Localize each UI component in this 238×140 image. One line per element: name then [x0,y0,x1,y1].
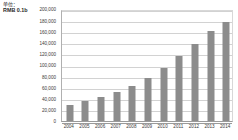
x-axis-tick-label: 2012 [189,124,199,129]
bar-slot [203,11,219,121]
bar [160,68,167,121]
x-axis-tick-label: 2006 [95,124,105,129]
bar-slot [125,11,141,121]
x-axis-tick-label: 2004 [64,124,74,129]
y-axis-tick-label: 60,000 [10,86,56,91]
y-axis-tick-label: 160,000 [10,30,56,35]
y-axis-tick-label: 180,000 [10,19,56,24]
bar [191,44,198,121]
bar [113,92,120,121]
x-axis-tick-label: 2009 [142,124,152,129]
plot-area [61,10,233,122]
bar-slot [78,11,94,121]
bar-slot [62,11,78,121]
bar-slot [218,11,234,121]
y-axis-tick-label: 120,000 [10,52,56,57]
bar [66,105,73,121]
y-axis-tick-label: 200,000 [10,7,56,12]
bar-slot [93,11,109,121]
y-axis-tick-label: 140,000 [10,41,56,46]
bar [129,86,136,121]
x-axis-tick-label: 2010 [158,124,168,129]
y-axis-tick-label: 80,000 [10,75,56,80]
bar [207,31,214,121]
bar-slot [109,11,125,121]
x-axis-tick-label: 2013 [204,124,214,129]
x-axis-tick-label: 2014 [220,124,230,129]
bar-slot [140,11,156,121]
x-axis-tick-label: 2005 [79,124,89,129]
bar [144,78,151,121]
bar-slot [187,11,203,121]
y-axis-tick-label: 20,000 [10,108,56,113]
bar [223,22,230,121]
y-axis-tick-label: 40,000 [10,97,56,102]
x-axis-tick-label: 2011 [173,124,183,129]
y-axis-tick-label: 0 [10,119,56,124]
bar [82,101,89,121]
bar [176,56,183,121]
bar-slot [156,11,172,121]
y-axis-tick-label: 100,000 [10,63,56,68]
x-axis-tick-label: 2008 [126,124,136,129]
x-axis-tick-label: 2007 [111,124,121,129]
bar-chart: 单位： RMB 0.1b 020,00040,00060,00080,00010… [0,0,238,140]
bar [98,97,105,121]
bar-slot [171,11,187,121]
bars-group [62,11,232,121]
